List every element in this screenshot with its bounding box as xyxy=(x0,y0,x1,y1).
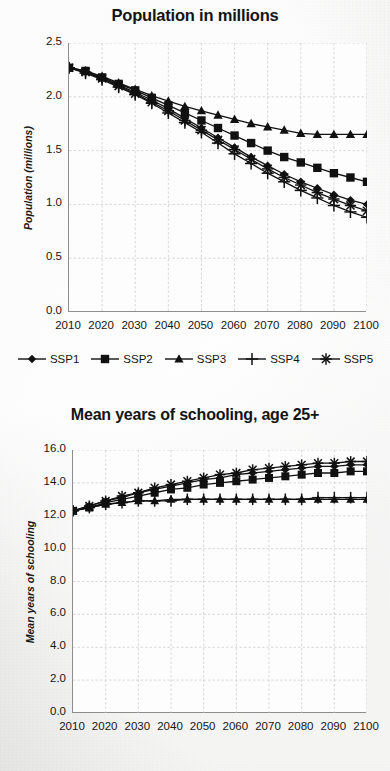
y-tick-label: 12.0 xyxy=(26,508,66,520)
legend-label: SSP5 xyxy=(344,353,373,365)
chart-2-title: Mean years of schooling, age 25+ xyxy=(0,406,390,424)
diamond-marker-icon xyxy=(17,352,47,366)
legend-item-ssp5: SSP5 xyxy=(311,352,373,366)
y-tick-label: 6.0 xyxy=(26,606,66,618)
legend-item-ssp1: SSP1 xyxy=(17,352,79,366)
plus-marker-icon xyxy=(237,352,267,366)
legend-label: SSP3 xyxy=(197,353,226,365)
legend-label: SSP2 xyxy=(123,353,152,365)
chart-1-title: Population in millions xyxy=(0,6,390,25)
square-marker-icon xyxy=(90,352,120,366)
y-tick-label: 2.0 xyxy=(22,89,62,101)
legend-label: SSP1 xyxy=(50,353,79,365)
x-tick-label: 2100 xyxy=(346,720,386,732)
legend-item-ssp4: SSP4 xyxy=(237,352,299,366)
chart-1-y-axis-title: Population (millions) xyxy=(22,126,34,230)
chart-1-plot-area xyxy=(68,43,366,312)
y-tick-label: 0.0 xyxy=(22,304,62,316)
y-tick-label: 8.0 xyxy=(26,574,66,586)
asterisk-marker-icon xyxy=(311,352,341,366)
y-tick-label: 2.0 xyxy=(26,672,66,684)
y-tick-label: 4.0 xyxy=(26,639,66,651)
y-tick-label: 14.0 xyxy=(26,475,66,487)
y-tick-label: 1.0 xyxy=(22,196,62,208)
chart-1-legend: SSP1SSP2SSP3SSP4SSP5 xyxy=(0,352,390,366)
legend-item-ssp2: SSP2 xyxy=(90,352,152,366)
chart-2-plot-area xyxy=(72,450,366,713)
legend-item-ssp3: SSP3 xyxy=(164,352,226,366)
y-tick-label: 10.0 xyxy=(26,541,66,553)
y-tick-label: 0.0 xyxy=(26,705,66,717)
y-tick-label: 16.0 xyxy=(26,442,66,454)
triangle-marker-icon xyxy=(164,352,194,366)
schooling-chart: Mean years of schooling, age 25+ Mean ye… xyxy=(0,392,390,771)
legend-label: SSP4 xyxy=(270,353,299,365)
x-tick-label: 2100 xyxy=(346,319,386,331)
population-chart: Population in millions Population (milli… xyxy=(0,0,390,392)
y-tick-label: 0.5 xyxy=(22,250,62,262)
y-tick-label: 1.5 xyxy=(22,143,62,155)
y-tick-label: 2.5 xyxy=(22,35,62,47)
